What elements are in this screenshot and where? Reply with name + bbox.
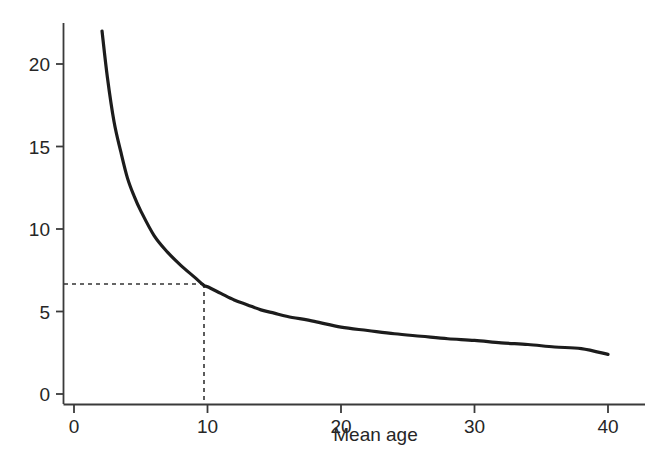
x-tick-label-20: 20 bbox=[330, 416, 351, 437]
y-axis-ticks bbox=[56, 64, 64, 394]
x-axis-tick-labels: 0 10 20 30 40 bbox=[69, 416, 619, 437]
data-curve bbox=[102, 31, 608, 354]
y-tick-label-10: 10 bbox=[29, 219, 50, 240]
y-tick-label-0: 0 bbox=[39, 384, 50, 405]
y-tick-label-15: 15 bbox=[29, 137, 50, 158]
x-tick-label-10: 10 bbox=[197, 416, 218, 437]
x-tick-label-30: 30 bbox=[464, 416, 485, 437]
y-axis-tick-labels: 20 15 10 5 0 bbox=[29, 54, 50, 405]
chart-figure: 20 15 10 5 0 0 10 20 30 40 bbox=[0, 0, 651, 463]
y-tick-label-20: 20 bbox=[29, 54, 50, 75]
x-axis-ticks bbox=[74, 405, 608, 414]
y-tick-label-5: 5 bbox=[39, 302, 50, 323]
reference-guide-lines bbox=[64, 284, 204, 404]
chart-plot-area: 20 15 10 5 0 0 10 20 30 40 bbox=[0, 0, 651, 463]
x-tick-label-0: 0 bbox=[69, 416, 80, 437]
x-tick-label-40: 40 bbox=[597, 416, 618, 437]
